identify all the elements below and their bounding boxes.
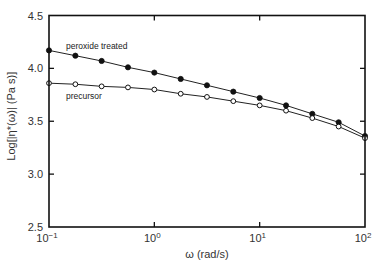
- series-label-peroxide-treated: peroxide treated: [66, 41, 128, 51]
- x-tick-label: 100: [144, 231, 161, 244]
- y-tick-label: 4.5: [28, 10, 43, 22]
- x-tick-label: 10−1: [36, 231, 58, 244]
- data-point-precursor: [178, 91, 183, 96]
- y-tick-label: 3.0: [28, 168, 43, 180]
- data-point-precursor: [73, 82, 78, 87]
- data-point-precursor: [126, 85, 131, 90]
- data-point-precursor: [99, 84, 104, 89]
- x-axis-label: ω (rad/s): [185, 248, 228, 260]
- x-tick-label: 102: [355, 231, 372, 244]
- data-point-precursor: [284, 108, 289, 113]
- chart: 2.53.03.54.04.510−1100101102 ω (rad/s) L…: [0, 0, 383, 268]
- x-tick-label: 101: [249, 231, 266, 244]
- data-point-peroxide-treated: [178, 76, 183, 81]
- data-point-peroxide-treated: [231, 89, 236, 94]
- y-axis-label: Log[|η*(ω)| (Pa s)]: [5, 72, 17, 161]
- data-point-precursor: [336, 124, 341, 129]
- data-point-precursor: [152, 87, 157, 92]
- data-point-precursor: [205, 95, 210, 100]
- data-point-peroxide-treated: [152, 70, 157, 75]
- data-point-peroxide-treated: [73, 53, 78, 58]
- series-label-precursor: precursor: [66, 91, 102, 101]
- data-point-peroxide-treated: [257, 95, 262, 100]
- data-point-peroxide-treated: [204, 83, 209, 88]
- data-point-peroxide-treated: [99, 58, 104, 63]
- data-point-precursor: [257, 103, 262, 108]
- y-tick-label: 4.0: [28, 62, 43, 74]
- data-point-precursor: [310, 116, 315, 121]
- data-point-peroxide-treated: [283, 103, 288, 108]
- data-point-precursor: [231, 99, 236, 104]
- y-tick-label: 3.5: [28, 115, 43, 127]
- data-point-peroxide-treated: [125, 65, 130, 70]
